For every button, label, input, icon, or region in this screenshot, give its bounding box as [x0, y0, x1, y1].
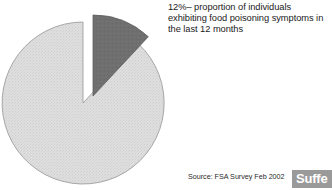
annotation-line-2: exhibiting food poisoning symptoms in: [168, 13, 325, 24]
annotation-text: 12%– proportion of individuals exhibitin…: [168, 2, 325, 35]
logo-label: Suffe: [296, 171, 328, 187]
pie-chart-svg: [0, 0, 180, 190]
pie-chart: [0, 0, 180, 190]
annotation-line-1: 12%– proportion of individuals: [168, 2, 325, 13]
source-credit: Source: FSA Survey Feb 2002: [188, 172, 285, 181]
logo-badge: Suffe: [292, 170, 332, 188]
annotation-line-3: the last 12 months: [168, 24, 325, 35]
